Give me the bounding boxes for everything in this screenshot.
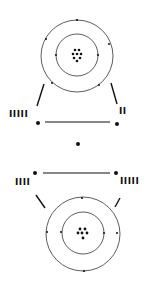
top-left-bond-stroke [37,84,44,106]
top-right-bond-stroke [111,83,117,104]
bottom-left-dot [33,171,37,175]
top-outer-shell [41,20,113,92]
bottom-outer-shell [46,197,120,271]
bottom-right-dot [114,171,118,175]
label-top-right: II [119,107,127,116]
top-atom [41,19,113,92]
label-bottom-right: IIIII [120,177,139,186]
top-nucleus [72,49,83,63]
bottom-right-bond-stroke [115,198,120,207]
diagram-canvas [0,0,149,291]
top-left-dot [36,121,40,125]
center-dot [76,142,80,146]
top-right-dot [115,122,119,126]
bottom-left-bond-stroke [36,195,45,208]
label-top-left: IIIII [9,110,28,119]
label-bottom-left: IIII [15,178,30,187]
bottom-atom [46,197,120,272]
bottom-nucleus [77,228,89,240]
